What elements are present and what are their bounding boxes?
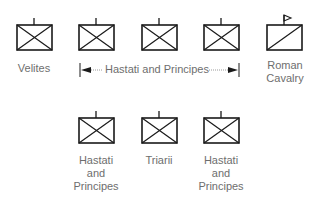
velites-unit-icon: [16, 18, 53, 51]
label-line: Principes: [66, 180, 126, 193]
label-line: Hastati: [191, 154, 251, 167]
roman-cavalry-label: Roman Cavalry: [256, 59, 314, 85]
roman-cavalry-unit-icon: [266, 14, 303, 51]
span-label: Hastati and Principes: [105, 63, 209, 76]
label-line: Principes: [191, 180, 251, 193]
label-line: and: [191, 167, 251, 180]
hastati-principes-left-label: Hastati and Principes: [66, 154, 126, 193]
triarii-unit-icon: [141, 111, 178, 144]
hastati-principes-span: Hastati and Principes: [79, 63, 240, 77]
hastati-principes-right-label: Hastati and Principes: [191, 154, 251, 193]
triarii-label: Triarii: [129, 154, 189, 167]
hastati-principes-unit-icon: [203, 18, 240, 51]
hastati-principes-unit-icon: [78, 18, 115, 51]
hastati-principes-unit-icon: [78, 111, 115, 144]
roman-cavalry-label-line1: Roman: [256, 59, 314, 72]
label-line: Hastati: [66, 154, 126, 167]
label-line: and: [66, 167, 126, 180]
velites-label: Velites: [4, 62, 64, 75]
hastati-principes-unit-icon: [141, 18, 178, 51]
roman-cavalry-label-line2: Cavalry: [256, 72, 314, 85]
hastati-principes-unit-icon: [203, 111, 240, 144]
